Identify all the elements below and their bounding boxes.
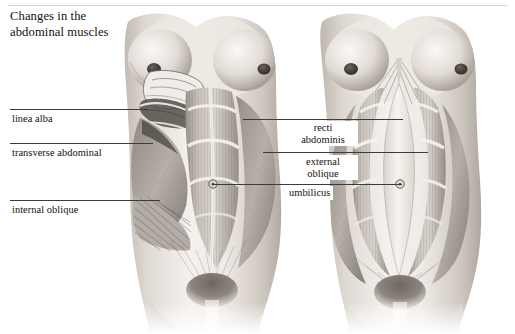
- label-recti-abdominis-line-2: abdominis: [290, 134, 356, 146]
- illustration-plate: Changes in the abdominal muscles: [0, 0, 515, 334]
- leader-line-transverse-abdominal: [10, 143, 153, 144]
- leader-line-recti-abdominis: [243, 119, 403, 120]
- leader-line-internal-oblique: [10, 200, 160, 201]
- leader-line-umbilicus: [212, 184, 402, 185]
- label-external-oblique-line-2: oblique: [290, 168, 356, 180]
- label-recti-abdominis-line-1: recti: [290, 122, 356, 134]
- label-external-oblique-line-1: external: [290, 156, 356, 168]
- leader-line-linea-alba: [10, 109, 148, 110]
- label-internal-oblique: internal oblique: [10, 203, 81, 217]
- anatomical-artwork: [0, 0, 515, 334]
- label-transverse-abdominal: transverse abdominal: [10, 146, 105, 160]
- label-linea-alba: linea alba: [10, 112, 56, 126]
- label-external-oblique: external oblique: [288, 155, 358, 180]
- leader-line-external-oblique: [263, 152, 428, 153]
- label-umbilicus: umbilicus: [286, 186, 333, 200]
- label-recti-abdominis: recti abdominis: [288, 121, 358, 146]
